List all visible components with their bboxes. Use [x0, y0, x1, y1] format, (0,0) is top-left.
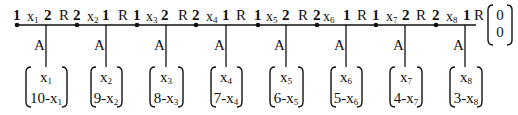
dot-4	[194, 23, 199, 28]
dot-8	[434, 23, 439, 28]
bond-8-label: R	[474, 8, 484, 23]
var-subscript: 7	[393, 15, 398, 25]
var-letter: x	[323, 9, 330, 24]
vec-expr: 5-x	[334, 90, 354, 106]
vec-sub: 8	[468, 76, 473, 86]
vec-sub: 5	[288, 76, 293, 86]
var-subscript: 5	[273, 15, 278, 25]
node-6-var: x6	[323, 9, 335, 28]
vector-7-bottom: 4-x7	[387, 90, 425, 111]
var-subscript: 4	[213, 15, 218, 25]
var-letter: x	[146, 9, 153, 24]
bond-2-label: R	[118, 8, 128, 23]
dot-3	[135, 23, 140, 28]
leg-6-label: A	[334, 38, 345, 53]
bond-5-label: R	[298, 8, 308, 23]
dot-5	[256, 23, 261, 28]
var-subscript: 2	[94, 15, 99, 25]
node-8-right-index: 1	[463, 8, 471, 23]
vector-8: x8 3-x8	[447, 66, 485, 108]
vec-expr: 9-x	[94, 90, 114, 106]
terminal-top: 0	[488, 7, 512, 24]
vector-5-bottom: 6-x5	[267, 90, 305, 111]
vector-1-bottom: 10-x1	[27, 90, 65, 111]
vector-3-top: x3	[147, 69, 185, 90]
terminal-zero-vector: 0 0	[488, 4, 512, 44]
vec-sub: 5	[294, 97, 299, 107]
vec-expr: 4-x	[394, 90, 414, 106]
vector-2-bottom: 9-x2	[87, 90, 125, 111]
vec-sub: 2	[108, 76, 113, 86]
vector-2: x2 9-x2	[87, 66, 125, 108]
node-4-var: x4	[206, 9, 218, 28]
node-7-var: x7	[386, 9, 398, 28]
vec-expr: 10-x	[30, 90, 58, 106]
vec-sub: 7	[414, 97, 419, 107]
bond-1-label: R	[59, 8, 69, 23]
var-subscript: 8	[453, 15, 458, 25]
vector-4: x4 7-x4	[207, 66, 245, 108]
bond-6-label: R	[357, 8, 367, 23]
vector-5: x5 6-x5	[267, 66, 305, 108]
node-5-var: x5	[266, 9, 278, 28]
vec-sub: 4	[234, 97, 239, 107]
vector-7-top: x7	[387, 69, 425, 90]
bond-7-label: R	[416, 8, 426, 23]
vec-sub: 1	[58, 97, 63, 107]
var-subscript: 1	[34, 15, 39, 25]
vec-sub: 6	[348, 76, 353, 86]
terminal-bottom: 0	[488, 24, 512, 41]
bond-3-label: R	[178, 8, 188, 23]
vector-4-top: x4	[207, 69, 245, 90]
node-4-left-index: 2	[192, 8, 200, 23]
vec-var: x	[160, 69, 168, 85]
dot-2	[75, 23, 80, 28]
dot-7	[374, 23, 379, 28]
node-5-right-index: 2	[282, 8, 290, 23]
node-5-left-index: 1	[254, 8, 262, 23]
node-3-var: x3	[146, 9, 158, 28]
vector-1-top: x1	[27, 69, 65, 90]
var-subscript: 3	[153, 15, 158, 25]
leg-7-label: A	[393, 38, 404, 53]
leg-8-label: A	[453, 38, 464, 53]
vector-7: x7 4-x7	[387, 66, 425, 108]
vec-var: x	[280, 69, 288, 85]
vec-var: x	[40, 69, 48, 85]
var-letter: x	[446, 9, 453, 24]
vector-6: x6 5-x6	[327, 66, 365, 108]
dot-6	[315, 23, 320, 28]
vec-var: x	[340, 69, 348, 85]
var-letter: x	[386, 9, 393, 24]
node-2-var: x2	[87, 9, 99, 28]
vec-var: x	[400, 69, 408, 85]
vec-var: x	[100, 69, 108, 85]
node-4-right-index: 1	[222, 8, 230, 23]
var-letter: x	[87, 9, 94, 24]
vec-sub: 1	[48, 76, 53, 86]
node-7-right-index: 2	[402, 8, 410, 23]
vec-expr: 6-x	[274, 90, 294, 106]
node-1-left-index: 1	[13, 8, 21, 23]
var-letter: x	[266, 9, 273, 24]
leg-1-label: A	[34, 38, 45, 53]
vec-expr: 8-x	[154, 90, 174, 106]
vec-var: x	[220, 69, 228, 85]
node-2-right-index: 1	[102, 8, 110, 23]
leg-2-label: A	[94, 38, 105, 53]
node-8-left-index: 2	[432, 8, 440, 23]
node-3-left-index: 1	[133, 8, 141, 23]
node-1-right-index: 2	[44, 8, 52, 23]
node-6-right-index: 1	[343, 8, 351, 23]
vector-4-bottom: 7-x4	[207, 90, 245, 111]
vector-3: x3 8-x3	[147, 66, 185, 108]
var-subscript: 6	[330, 15, 335, 25]
leg-5-label: A	[274, 38, 285, 53]
vector-6-top: x6	[327, 69, 365, 90]
vec-var: x	[460, 69, 468, 85]
leg-4-label: A	[214, 38, 225, 53]
vec-sub: 4	[228, 76, 233, 86]
node-3-right-index: 2	[161, 8, 169, 23]
vec-sub: 6	[354, 97, 359, 107]
vector-5-top: x5	[267, 69, 305, 90]
